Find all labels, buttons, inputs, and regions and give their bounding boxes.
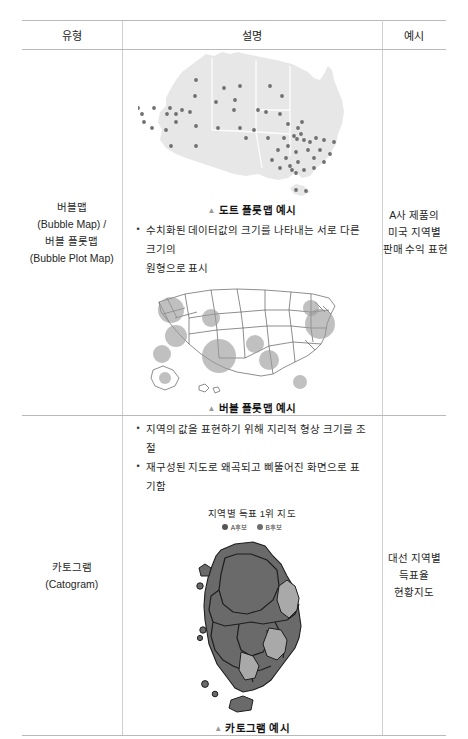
- row2-bullet-2: 재구성된 지도로 왜곡되고 삐뚤어진 화면으로 표기함: [137, 458, 370, 496]
- cartogram-legend: A후보 B후보: [123, 522, 382, 532]
- triangle-marker-icon: ▲: [214, 724, 222, 733]
- row2-example-line-1: 대선 지역별: [383, 550, 447, 567]
- figure3-caption-text: 카토그램 예시: [225, 722, 289, 734]
- row2-type-line-1: 카토그램: [22, 559, 122, 576]
- row2-type-line-2: (Catogram): [22, 576, 122, 593]
- row1-example-line-3: 판매 수익 표현: [383, 241, 447, 258]
- legend-label-a: A후보: [231, 522, 247, 532]
- row2-bullet-1: 지역의 값을 표현하기 위해 지리적 형상 크기를 조절: [137, 420, 370, 458]
- row1-type-line-2: (Bubble Map) /: [22, 216, 122, 233]
- header-row: 유형 설명 예시: [22, 21, 446, 50]
- row1-type-cell: 버블맵 (Bubble Map) / 버블 플롯맵 (Bubble Plot M…: [22, 50, 122, 416]
- header-example: 예시: [382, 21, 446, 50]
- legend-item-a: A후보: [222, 522, 247, 532]
- cartogram-body: [197, 542, 301, 712]
- document-page: 유형 설명 예시 버블맵 (Bubble Map) / 버블 플롯맵 (Bubb…: [0, 0, 468, 739]
- table-header: 유형 설명 예시: [22, 21, 446, 50]
- row1-type-line-1: 버블맵: [22, 199, 122, 216]
- table-row: 카토그램 (Catogram) 지역의 값을 표현하기 위해 지리적 형상 크기…: [22, 416, 446, 736]
- row2-bullet-list: 지역의 값을 표현하기 위해 지리적 형상 크기를 조절 재구성된 지도로 왜곡…: [123, 416, 382, 502]
- row1-type-line-4: (Bubble Plot Map): [22, 250, 122, 267]
- table-row: 버블맵 (Bubble Map) / 버블 플롯맵 (Bubble Plot M…: [22, 50, 446, 416]
- legend-item-b: B후보: [257, 522, 282, 532]
- legend-label-b: B후보: [266, 522, 282, 532]
- row1-bullet-1-cont: 원형으로 표시: [137, 259, 370, 278]
- row1-bullet-1: 수치화된 데이터값의 크기를 나타내는 서로 다른 크기의: [137, 221, 370, 259]
- triangle-marker-icon: ▲: [208, 206, 216, 215]
- row1-type-line-3: 버블 플롯맵: [22, 233, 122, 250]
- row2-example-line-2: 득표율: [383, 567, 447, 584]
- usa-bubble-map-figure: [145, 284, 359, 396]
- figure1-caption: ▲도트 플롯맵 예시: [123, 202, 382, 217]
- header-description: 설명: [122, 21, 382, 50]
- row2-example-line-3: 현황지도: [383, 584, 447, 601]
- comparison-table: 유형 설명 예시 버블맵 (Bubble Map) / 버블 플롯맵 (Bubb…: [22, 20, 446, 736]
- row2-description-cell: 지역의 값을 표현하기 위해 지리적 형상 크기를 조절 재구성된 지도로 왜곡…: [122, 416, 382, 736]
- legend-dot-b-icon: [257, 524, 263, 530]
- header-type: 유형: [22, 21, 122, 50]
- row2-type-cell: 카토그램 (Catogram): [22, 416, 122, 736]
- triangle-marker-icon: ▲: [208, 404, 216, 413]
- row1-example-line-2: 미국 지역별: [383, 224, 447, 241]
- figure2-caption: ▲버블 플롯맵 예시: [123, 400, 382, 415]
- row1-description-cell: ▲도트 플롯맵 예시 수치화된 데이터값의 크기를 나타내는 서로 다른 크기의…: [122, 50, 382, 416]
- figure1-caption-text: 도트 플롯맵 예시: [219, 204, 297, 216]
- row1-example-cell: A사 제품의 미국 지역별 판매 수익 표현: [382, 50, 446, 416]
- table-body: 버블맵 (Bubble Map) / 버블 플롯맵 (Bubble Plot M…: [22, 50, 446, 736]
- row1-bullet-list: 수치화된 데이터값의 크기를 나타내는 서로 다른 크기의 원형으로 표시: [123, 217, 382, 284]
- row2-example-cell: 대선 지역별 득표율 현황지도: [382, 416, 446, 736]
- cartogram-chart-title: 지역별 득표 1위 지도: [123, 506, 382, 520]
- legend-dot-a-icon: [222, 524, 228, 530]
- figure2-caption-text: 버블 플롯맵 예시: [219, 402, 297, 414]
- row1-example-line-1: A사 제품의: [383, 207, 447, 224]
- australia-landmass: [158, 52, 344, 196]
- figure3-caption: ▲카토그램 예시: [123, 720, 382, 735]
- australia-dot-plot-map-figure: [138, 50, 366, 198]
- south-korea-cartogram-figure: [191, 534, 313, 716]
